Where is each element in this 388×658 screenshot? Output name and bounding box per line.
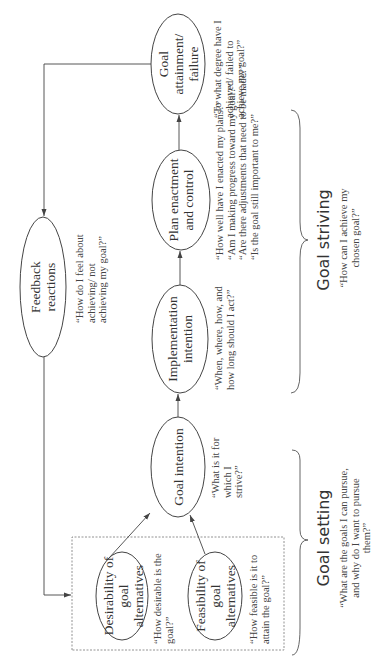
implementation-intention-label: Implementation intention — [165, 287, 195, 391]
goal-striving-label: Goal striving — [314, 180, 333, 300]
arrow-feasibility-to-goal-intention — [190, 515, 205, 554]
feedback-node: Feedback reactions — [22, 242, 64, 332]
goal-attainment-question: “To what degree have I achieved/ failed … — [212, 14, 247, 118]
desirability-label: Desirability of goal alternatives — [101, 552, 146, 640]
goal-process-diagram: Desirability of goal alternatives Feasib… — [0, 0, 388, 658]
feasibility-question: “How feasible is it to attain the goal?” — [248, 540, 271, 644]
plan-enactment-node: Plan enactment and control — [155, 155, 207, 245]
plan-question-4: “Is the goal still important to me?” — [249, 50, 261, 260]
goal-striving-question: “How can I achieve my chosen goal?” — [338, 178, 361, 298]
goal-attainment-node: Goal attainment/ failure — [153, 20, 203, 108]
arrow-feedback-to-alternatives — [44, 357, 71, 595]
feasibility-label: Feasibility of goal alternatives — [193, 552, 238, 640]
goal-intention-node: Goal intention — [155, 427, 201, 507]
goal-attainment-label: Goal attainment/ failure — [156, 20, 201, 108]
goal-intention-question: “What is it for which I strive?” — [210, 436, 245, 498]
feedback-label: Feedback reactions — [28, 242, 58, 332]
goal-setting-brace — [292, 450, 308, 655]
plan-enactment-label: Plan enactment and control — [166, 155, 196, 245]
implementation-intention-question: “When, where, how, and how long should I… — [213, 286, 236, 390]
feedback-question: “How do I feel about achieving/ not achi… — [74, 231, 109, 323]
desirability-node: Desirability of goal alternatives — [98, 552, 148, 640]
goal-setting-question: “What are the goals I can pursue, and wh… — [338, 468, 373, 608]
goal-striving-brace — [291, 110, 308, 393]
desirability-question: “How desirable is the goal?” — [152, 540, 175, 644]
implementation-intention-node: Implementation intention — [157, 287, 203, 391]
goal-setting-label: Goal setting — [314, 478, 333, 598]
feasibility-node: Feasibility of goal alternatives — [190, 552, 240, 640]
arrow-attainment-to-feedback — [44, 64, 151, 216]
goal-intention-label: Goal intention — [171, 428, 186, 506]
